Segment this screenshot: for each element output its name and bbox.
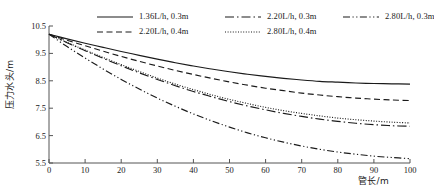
x-tick-label: 40: [178, 166, 208, 175]
y-axis-tick-labels: 10.59.58.57.56.55.5: [20, 0, 46, 193]
x-tick-label: 20: [106, 166, 136, 175]
y-tick-label: 10.5: [22, 22, 46, 31]
y-tick-label: 7.5: [22, 104, 46, 113]
series-line: [49, 34, 410, 84]
x-tick-label: 70: [287, 166, 317, 175]
x-tick-label: 10: [70, 166, 100, 175]
y-tick-label: 8.5: [22, 77, 46, 86]
series-line: [49, 34, 410, 126]
x-tick-label: 60: [251, 166, 281, 175]
x-tick-label: 0: [34, 166, 64, 175]
x-tick-label: 80: [323, 166, 353, 175]
x-tick-label: 100: [395, 166, 425, 175]
series-line: [49, 34, 410, 100]
x-tick-label: 50: [215, 166, 245, 175]
x-axis-title: 管长/m: [358, 174, 389, 187]
y-tick-label: 9.5: [22, 49, 46, 58]
y-tick-label: 6.5: [22, 132, 46, 141]
x-tick-label: 30: [142, 166, 172, 175]
series-line: [49, 34, 410, 158]
y-axis-title: 压力水头/m: [3, 47, 16, 123]
